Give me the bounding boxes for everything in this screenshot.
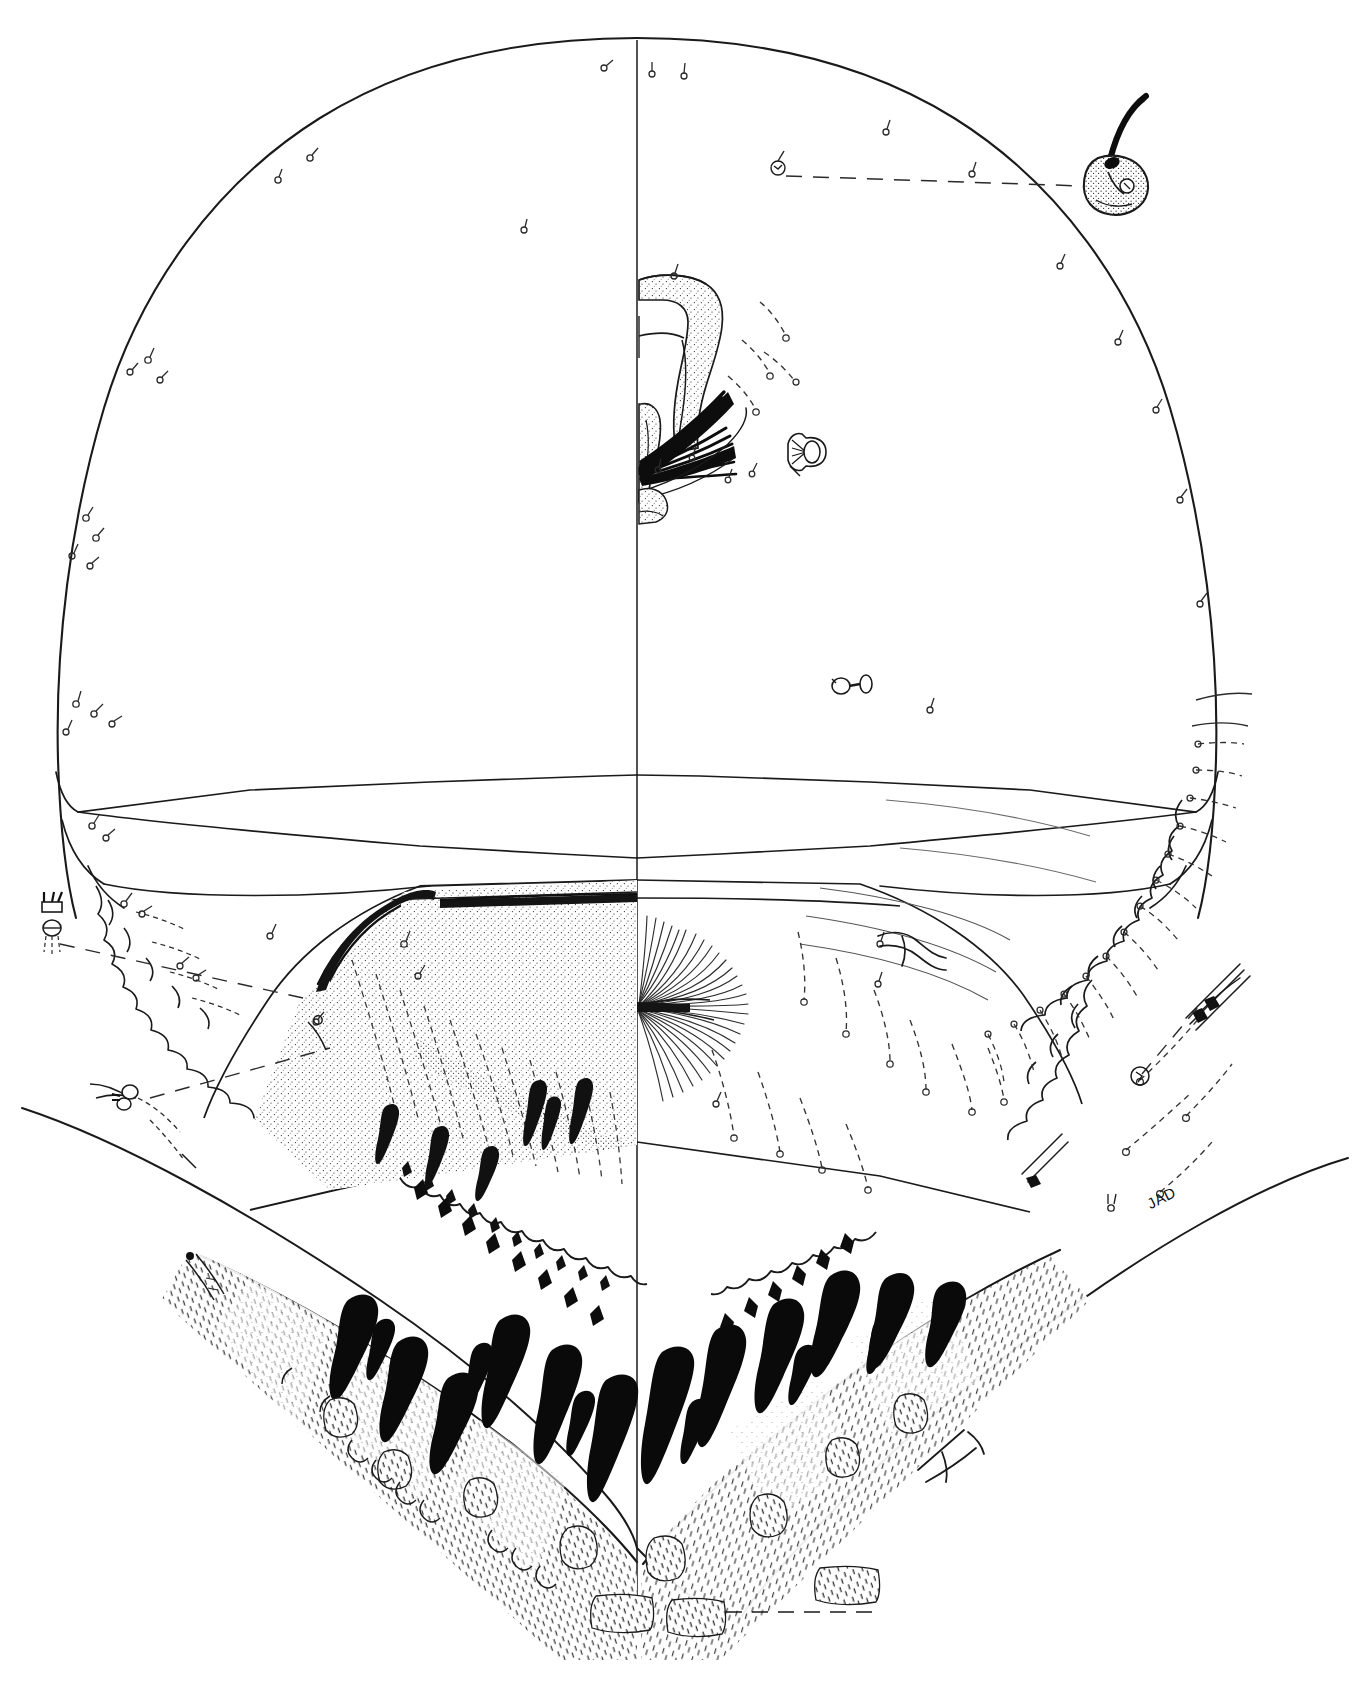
scientific-illustration-figure: JAD	[0, 0, 1372, 1692]
bifid-seta-inset	[42, 892, 62, 954]
illustration-canvas	[0, 0, 1372, 1692]
